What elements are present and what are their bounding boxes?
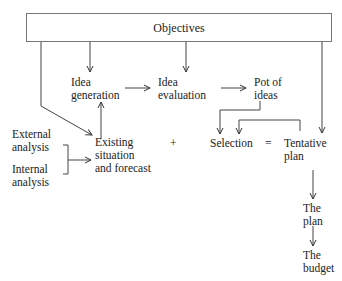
node-the-budget: The budget bbox=[303, 249, 334, 275]
plus-operator: + bbox=[170, 137, 177, 150]
objectives-box: Objectives bbox=[26, 13, 332, 42]
node-tentative-plan: Tentative plan bbox=[284, 137, 327, 163]
node-pot-of-ideas: Pot of ideas bbox=[254, 76, 282, 102]
node-idea-generation: Idea generation bbox=[71, 76, 120, 102]
node-existing-situation: Existing situation and forecast bbox=[95, 136, 151, 175]
analysis-bracket bbox=[63, 145, 68, 174]
node-internal-analysis: Internal analysis bbox=[12, 163, 49, 189]
node-external-analysis: External analysis bbox=[12, 128, 51, 154]
edge-pot-selection bbox=[220, 101, 260, 134]
objectives-label: Objectives bbox=[27, 21, 331, 36]
node-idea-evaluation: Idea evaluation bbox=[158, 76, 206, 102]
edge-tentative-selection bbox=[239, 120, 300, 134]
node-selection: Selection bbox=[210, 137, 253, 150]
equals-operator: = bbox=[265, 137, 272, 150]
node-the-plan: The plan bbox=[303, 202, 323, 228]
